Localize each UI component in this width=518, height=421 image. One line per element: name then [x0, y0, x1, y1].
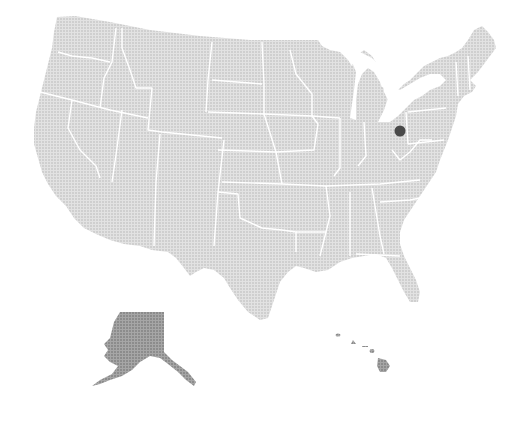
- alaska: [92, 312, 196, 386]
- contiguous-us: [34, 16, 496, 320]
- hawaii-island-big: [377, 358, 390, 372]
- us-map: [0, 0, 518, 421]
- hawaii-island-molokai: [362, 346, 368, 347]
- contiguous-us-shape: [34, 16, 496, 320]
- location-marker[interactable]: [395, 126, 406, 137]
- hawaii: [336, 334, 391, 373]
- hawaii-island-kauai: [336, 334, 341, 337]
- us-map-svg: [0, 0, 518, 421]
- alaska-shape: [92, 312, 196, 386]
- hawaii-island-oahu: [351, 340, 356, 344]
- hawaii-island-maui: [370, 349, 375, 353]
